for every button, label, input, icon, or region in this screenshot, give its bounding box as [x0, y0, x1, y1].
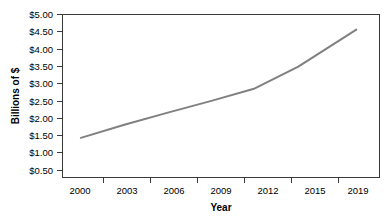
x-tick-label-2000: 2000: [69, 185, 90, 196]
y-tick-label-5-00: $5.00: [29, 9, 53, 20]
y-tick-label-3-50: $3.50: [29, 61, 53, 72]
x-tick-label-2009: 2009: [210, 185, 231, 196]
x-axis-tick-labels: 2000 2003 2006 2009 2012 2015 2019: [69, 185, 368, 196]
x-tick-label-2006: 2006: [163, 185, 184, 196]
x-tick-label-2003: 2003: [116, 185, 137, 196]
plot-area-background: [62, 14, 380, 177]
y-axis-title: Billions of $: [10, 67, 21, 124]
y-tick-label-1-00: $1.00: [29, 147, 53, 158]
chart-figure: $5.00 $4.50 $4.00 $3.50 $3.00 $2.50 $2.0…: [0, 0, 390, 220]
y-tick-label-2-50: $2.50: [29, 96, 53, 107]
x-tick-label-2019: 2019: [347, 185, 368, 196]
x-axis-title: Year: [210, 202, 231, 213]
x-tick-label-2012: 2012: [257, 185, 278, 196]
y-tick-label-4-00: $4.00: [29, 44, 53, 55]
y-tick-label-2-00: $2.00: [29, 113, 53, 124]
y-axis-tick-labels: $5.00 $4.50 $4.00 $3.50 $3.00 $2.50 $2.0…: [29, 9, 53, 176]
y-tick-label-1-50: $1.50: [29, 130, 53, 141]
y-tick-label-3-00: $3.00: [29, 78, 53, 89]
line-chart: $5.00 $4.50 $4.00 $3.50 $3.00 $2.50 $2.0…: [0, 0, 390, 220]
x-axis-ticks: [104, 178, 339, 184]
x-tick-label-2015: 2015: [304, 185, 325, 196]
y-axis-ticks: [57, 15, 63, 171]
y-tick-label-4-50: $4.50: [29, 26, 53, 37]
y-tick-label-0-50: $0.50: [29, 165, 53, 176]
